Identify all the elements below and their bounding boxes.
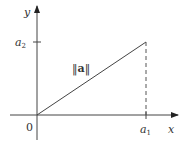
- vector-magnitude-diagram: y x 0 a2 a1 ‖a‖: [0, 0, 186, 145]
- y-axis-label: y: [23, 6, 31, 19]
- origin-label: 0: [26, 121, 33, 134]
- x-axis-label: x: [168, 123, 175, 136]
- y-tick-label: a2: [15, 36, 26, 50]
- vector-line: [37, 42, 146, 115]
- x-tick-label: a1: [140, 123, 151, 137]
- vector-magnitude-label: ‖a‖: [72, 62, 90, 76]
